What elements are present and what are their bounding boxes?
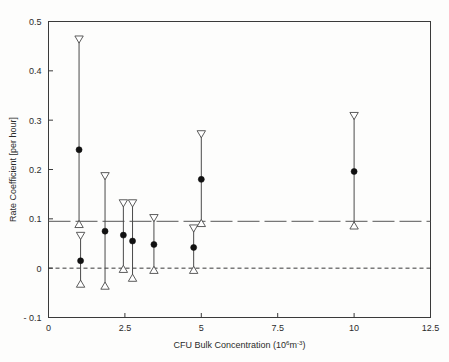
data-marker (130, 238, 136, 244)
error-cap-upper-triangle-icon (197, 131, 205, 138)
axis-ticks-group: 02.557.51012.5- 0.100.10.20.30.40.5 (23, 17, 439, 333)
data-marker (120, 232, 126, 238)
error-cap-lower-triangle-icon (150, 266, 158, 273)
error-cap-upper-triangle-icon (128, 200, 136, 207)
y-tick-label: 0 (36, 264, 41, 274)
error-cap-lower-triangle-icon (350, 222, 358, 229)
y-tick-label: 0.3 (29, 116, 42, 126)
data-point-group (76, 232, 84, 287)
error-cap-lower-triangle-icon (197, 219, 205, 226)
data-point-group (75, 36, 83, 228)
y-tick-label: 0.5 (29, 17, 42, 27)
error-cap-upper-triangle-icon (189, 225, 197, 232)
error-cap-upper-triangle-icon (76, 232, 84, 239)
error-cap-upper-triangle-icon (75, 36, 83, 43)
error-cap-upper-triangle-icon (150, 215, 158, 222)
x-tick-label: 12.5 (422, 323, 440, 333)
plot-frame (49, 22, 431, 318)
x-tick-label: 10 (349, 323, 359, 333)
data-point-group (119, 200, 127, 273)
error-cap-upper-triangle-icon (350, 112, 358, 119)
y-tick-label: 0.1 (29, 214, 42, 224)
scatter-plot-svg: 02.557.51012.5- 0.100.10.20.30.40.5 CFU … (0, 0, 449, 362)
data-marker (76, 147, 82, 153)
plot-border (49, 22, 431, 318)
data-point-group (189, 225, 197, 273)
error-cap-upper-triangle-icon (101, 173, 109, 180)
data-point-group (197, 131, 205, 227)
data-marker (351, 168, 357, 174)
error-cap-lower-triangle-icon (76, 280, 84, 287)
x-tick-label: 0 (46, 323, 51, 333)
error-cap-lower-triangle-icon (189, 266, 197, 273)
data-marker (78, 258, 84, 264)
error-cap-lower-triangle-icon (101, 282, 109, 289)
x-tick-label: 2.5 (119, 323, 132, 333)
y-axis-title: Rate Coefficient [per hour] (8, 117, 18, 222)
data-marker (191, 244, 197, 250)
y-tick-label: 0.2 (29, 165, 42, 175)
data-marker (151, 241, 157, 247)
y-tick-label: 0.4 (29, 66, 42, 76)
data-points-group (75, 36, 358, 289)
data-point-group (128, 200, 136, 282)
data-point-group (150, 215, 158, 274)
data-point-group (101, 173, 109, 290)
data-marker (198, 176, 204, 182)
error-cap-upper-triangle-icon (119, 200, 127, 207)
data-marker (102, 228, 108, 234)
data-point-group (350, 112, 358, 229)
x-tick-label: 5 (199, 323, 204, 333)
error-cap-lower-triangle-icon (128, 274, 136, 281)
x-tick-label: 7.5 (271, 323, 284, 333)
x-axis-title: CFU Bulk Concentration (106m-3) (173, 339, 305, 350)
chart-figure: 02.557.51012.5- 0.100.10.20.30.40.5 CFU … (0, 0, 449, 362)
y-tick-label: - 0.1 (23, 313, 41, 323)
error-cap-lower-triangle-icon (119, 265, 127, 272)
axis-labels-group: CFU Bulk Concentration (106m-3)Rate Coef… (8, 117, 306, 350)
